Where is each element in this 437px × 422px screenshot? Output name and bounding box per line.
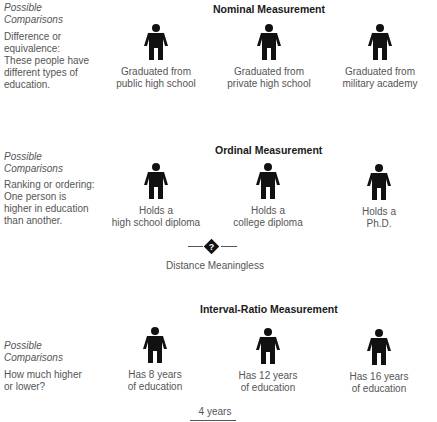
person-silhouette-icon bbox=[256, 24, 282, 60]
possible-comparisons-label: Possible Comparisons bbox=[4, 2, 94, 26]
person-8-years: Has 8 years of education bbox=[95, 327, 215, 393]
comparison-description: Difference or equivalence: These people … bbox=[4, 31, 99, 91]
person-caption: Graduated from public high school bbox=[96, 66, 216, 90]
svg-text:?: ? bbox=[209, 242, 215, 252]
person-silhouette-icon bbox=[143, 163, 169, 199]
person-caption: Holds a college diploma bbox=[208, 205, 328, 229]
person-caption: Has 8 years of education bbox=[95, 369, 215, 393]
person-high-school-diploma: Holds a high school diploma bbox=[96, 163, 216, 229]
distance-line-right bbox=[221, 246, 237, 247]
person-caption: Graduated from military academy bbox=[320, 66, 437, 90]
interval-line bbox=[190, 420, 236, 421]
section-title: Nominal Measurement bbox=[213, 3, 325, 15]
section-ordinal: Ordinal Measurement Possible Comparisons… bbox=[0, 140, 437, 275]
person-college-diploma: Holds a college diploma bbox=[208, 163, 328, 229]
person-16-years: Has 16 years of education bbox=[319, 329, 437, 395]
person-silhouette-icon bbox=[143, 24, 169, 60]
person-caption: Holds a high school diploma bbox=[96, 205, 216, 229]
comparison-description: Ranking or ordering: One person is highe… bbox=[4, 179, 99, 227]
section-nominal: Nominal Measurement Possible Comparisons… bbox=[0, 0, 437, 130]
person-public-high-school: Graduated from public high school bbox=[96, 24, 216, 90]
person-phd: Holds a Ph.D. bbox=[319, 164, 437, 230]
section-title: Interval-Ratio Measurement bbox=[200, 303, 338, 315]
interval-label: 4 years bbox=[190, 406, 240, 417]
person-silhouette-icon bbox=[367, 24, 393, 60]
section-interval-ratio: Interval-Ratio Measurement Possible Comp… bbox=[0, 280, 437, 422]
distance-label: Distance Meaningless bbox=[160, 260, 270, 271]
person-silhouette-icon bbox=[366, 164, 392, 200]
person-silhouette-icon bbox=[255, 163, 281, 199]
comparison-description: How much higher or lower? bbox=[4, 369, 99, 393]
person-caption: Holds a Ph.D. bbox=[319, 206, 437, 230]
person-private-high-school: Graduated from private high school bbox=[209, 24, 329, 90]
possible-comparisons-label: Possible Comparisons bbox=[4, 151, 94, 175]
person-caption: Has 12 years of education bbox=[208, 370, 328, 394]
possible-comparisons-label: Possible Comparisons bbox=[4, 340, 94, 364]
person-military-academy: Graduated from military academy bbox=[320, 24, 437, 90]
section-title: Ordinal Measurement bbox=[215, 144, 322, 156]
person-caption: Graduated from private high school bbox=[209, 66, 329, 90]
person-caption: Has 16 years of education bbox=[319, 371, 437, 395]
person-silhouette-icon bbox=[255, 328, 281, 364]
distance-line-left bbox=[188, 246, 203, 247]
person-silhouette-icon bbox=[142, 327, 168, 363]
question-diamond-icon: ? bbox=[203, 238, 220, 255]
person-12-years: Has 12 years of education bbox=[208, 328, 328, 394]
person-silhouette-icon bbox=[366, 329, 392, 365]
